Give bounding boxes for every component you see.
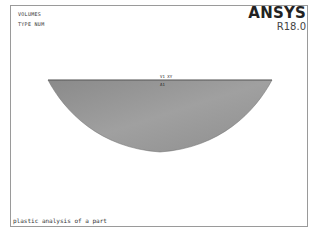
volume-shape[interactable] (0, 0, 315, 236)
area-label: A1 (160, 82, 165, 87)
volume-label: V1 XY (160, 74, 172, 79)
plot-title: plastic analysis of a part (13, 217, 107, 224)
